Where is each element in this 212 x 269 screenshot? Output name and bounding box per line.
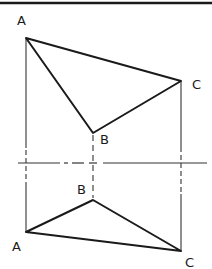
projection-diagram: A B C A B C (0, 0, 212, 269)
top-view-triangle (26, 38, 181, 133)
front-label-a: A (12, 239, 21, 254)
front-label-c: C (185, 255, 194, 269)
top-label-b: B (100, 132, 109, 147)
front-label-b: B (77, 182, 86, 197)
top-label-c: C (192, 77, 201, 92)
front-view-triangle (26, 200, 181, 251)
top-label-a: A (17, 13, 26, 28)
